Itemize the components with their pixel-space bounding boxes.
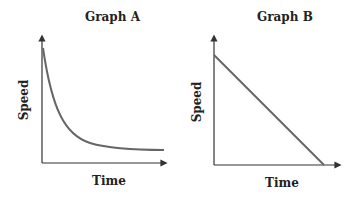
- charts-canvas: [0, 0, 350, 199]
- graph-b-ylabel: Speed: [190, 82, 204, 123]
- graph-a-axes: [42, 38, 164, 163]
- graph-b-line: [214, 55, 324, 165]
- graph-a-title: Graph A: [85, 10, 140, 24]
- graph-a-ylabel: Speed: [17, 80, 31, 121]
- graph-b-xlabel: Time: [265, 176, 299, 190]
- graph-b-title: Graph B: [257, 10, 313, 24]
- graph-a-curve: [43, 48, 164, 150]
- graph-a-xlabel: Time: [92, 174, 126, 188]
- graph-b-axes: [214, 38, 338, 165]
